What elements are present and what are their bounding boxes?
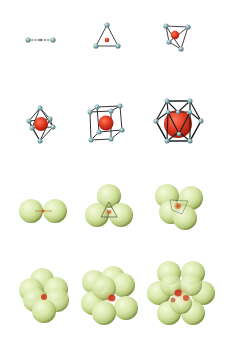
linear-ball-and-stick-model	[25, 37, 55, 42]
tetrahedral-ball-and-stick-model	[163, 23, 190, 51]
ligand-atom	[50, 37, 55, 42]
ligand-atom	[25, 37, 30, 42]
central-atom	[171, 31, 179, 39]
central-atom	[105, 38, 110, 43]
cuboctahedral-space-filling-model	[147, 261, 215, 325]
trigonal-planar-space-filling-model	[85, 184, 133, 227]
cubic-ball-and-stick-model	[88, 104, 125, 143]
linear-space-filling-model	[19, 199, 67, 223]
central-atom	[34, 117, 48, 131]
central-atom	[99, 116, 114, 131]
octahedral-space-filling-model	[19, 268, 69, 323]
trigonal-planar-ball-and-stick-model	[93, 22, 120, 48]
cubic-space-filling-model	[81, 266, 138, 325]
octahedral-ball-and-stick-model	[27, 106, 56, 144]
coordination-polyhedra-figure	[0, 0, 227, 349]
cuboctahedral-ball-and-stick-model	[154, 99, 204, 144]
tetrahedral-space-filling-model	[155, 184, 203, 230]
